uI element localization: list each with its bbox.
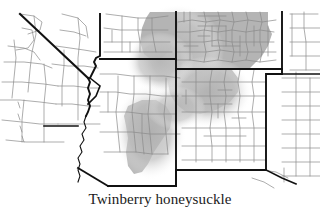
range-map-graphic	[0, 0, 320, 218]
figure-caption: Twinberry honeysuckle	[0, 190, 320, 208]
distribution-map-figure: Twinberry honeysuckle	[0, 0, 320, 218]
